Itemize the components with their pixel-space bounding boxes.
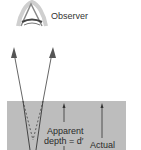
ray-left-arrow [14,53,23,101]
apparent-label-line1: Apparent [47,126,84,136]
apparent-depth-diagram: Observer Apparent depth = d′ Actual [0,0,141,150]
ray-left-arrowhead-icon [11,47,17,58]
ray-right-arrow [43,53,52,101]
observer-label: Observer [51,11,88,21]
apparent-arrowhead-icon [63,103,66,108]
actual-label: Actual [90,140,115,150]
eye-icon [18,2,46,26]
actual-arrowhead-icon [101,103,104,108]
ray-right-arrowhead-icon [49,47,56,58]
apparent-label-line2: depth = d′ [44,136,83,146]
